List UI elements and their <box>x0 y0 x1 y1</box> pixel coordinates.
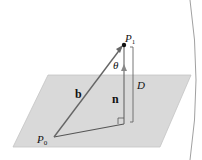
normal-n-arrowhead <box>121 64 127 71</box>
vector-b-arrowhead <box>116 45 123 53</box>
page-edge-curve <box>190 0 196 160</box>
label-b: b <box>75 87 82 101</box>
label-p1: P1 <box>124 32 136 46</box>
label-n: n <box>112 92 119 106</box>
label-theta: θ <box>113 59 119 71</box>
distance-point-to-plane-diagram: P1 θ b n D P0 <box>0 0 202 160</box>
label-D: D <box>136 79 145 91</box>
